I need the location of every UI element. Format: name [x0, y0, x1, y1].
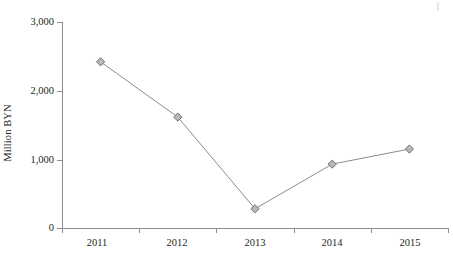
x-axis-tick-5: [448, 228, 449, 233]
x-axis-label-2015: 2015: [370, 238, 450, 249]
y-axis-label-0: 0: [0, 223, 54, 234]
y-axis-label-1000: 1,000: [0, 155, 54, 166]
x-axis-tick-1: [139, 228, 140, 233]
plot-area: [0, 0, 453, 260]
x-axis-tick-4: [371, 228, 372, 233]
x-axis-label-2011: 2011: [57, 238, 137, 249]
x-axis-label-2013: 2013: [215, 238, 295, 249]
y-axis-tick-3000: [57, 22, 62, 23]
data-point-2014: [328, 160, 336, 168]
x-axis-line: [62, 228, 448, 229]
y-axis-label-3000: 3,000: [0, 17, 54, 28]
y-axis-label-2000: 2,000: [0, 86, 54, 97]
data-point-2012: [174, 113, 182, 121]
data-point-2011: [97, 58, 105, 66]
y-axis-line: [62, 22, 63, 229]
x-axis-tick-2: [216, 228, 217, 233]
line-chart: Million BYN 3,000 2,000 1,000 0 2011 201…: [0, 0, 453, 260]
x-axis-tick-3: [294, 228, 295, 233]
x-axis-tick-0: [62, 228, 63, 233]
series-markers: [97, 58, 414, 213]
scan-artifact: [437, 2, 439, 11]
y-axis-tick-2000: [57, 91, 62, 92]
x-axis-label-2014: 2014: [292, 238, 372, 249]
series-line-million-byn: [101, 62, 410, 209]
data-point-2013: [251, 205, 259, 213]
y-axis-tick-1000: [57, 160, 62, 161]
data-point-2015: [405, 145, 413, 153]
x-axis-label-2012: 2012: [137, 238, 217, 249]
